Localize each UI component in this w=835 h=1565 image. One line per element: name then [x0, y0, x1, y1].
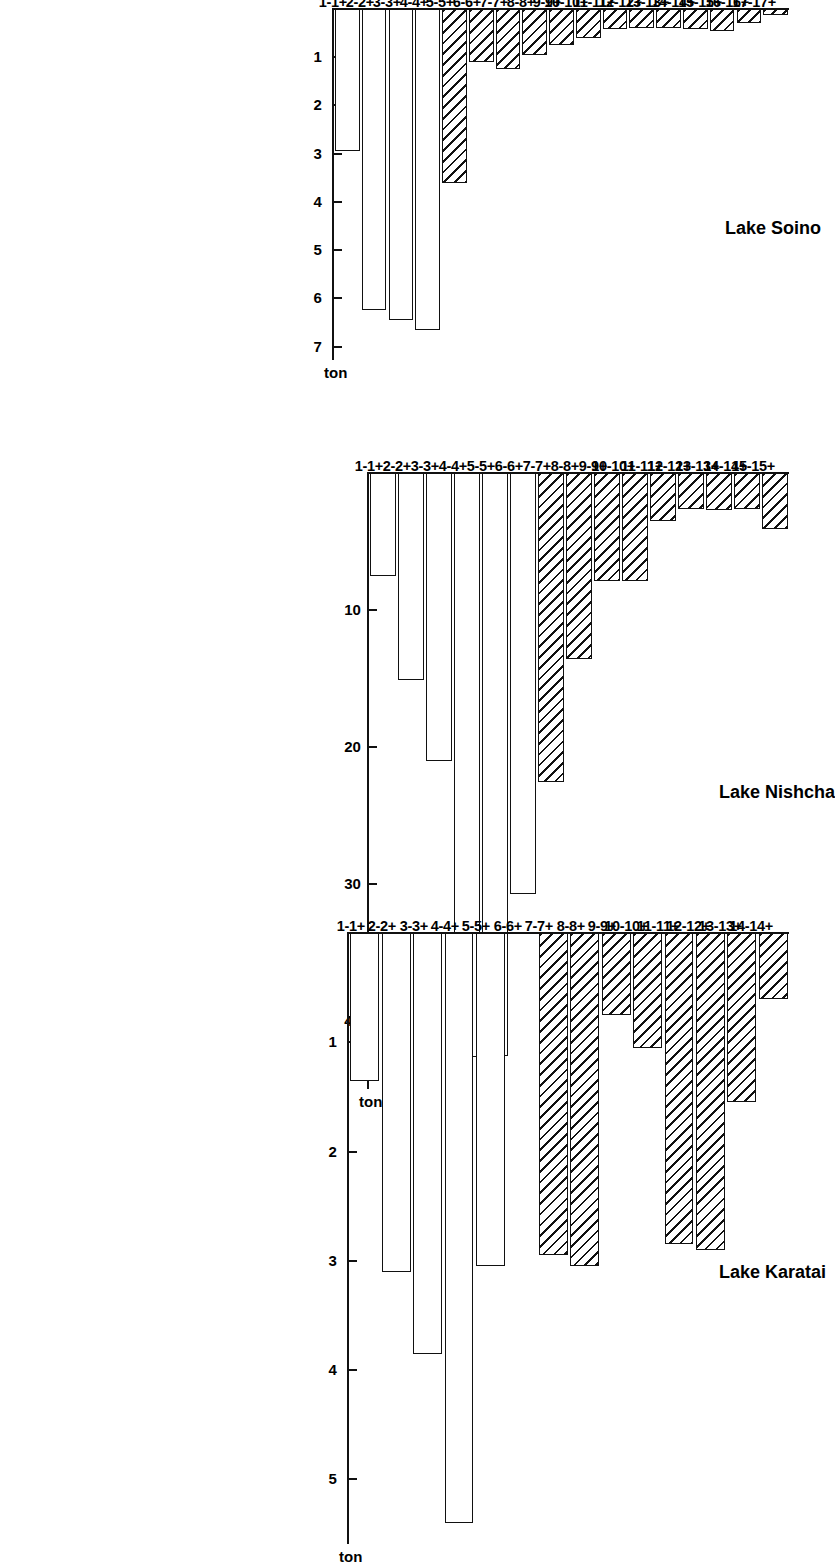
bar: [696, 933, 725, 1250]
category-label: 6-6+: [495, 458, 523, 474]
value-axis-tick-label: 5: [302, 241, 334, 258]
category-label: 5-5+: [426, 0, 454, 10]
value-axis-unit-label: ton: [339, 1548, 362, 1565]
category-label: 1-1+: [355, 458, 383, 474]
category-label: 2-2+: [383, 458, 411, 474]
value-axis-tick-label: 2: [302, 96, 334, 113]
category-label: 17-17+: [732, 0, 776, 10]
category-label: 3-3+: [373, 0, 401, 10]
category-label: 4-4+: [431, 918, 459, 934]
category-label: 15-15+: [731, 458, 775, 474]
category-label: 7-7+: [525, 918, 553, 934]
bar: [665, 933, 694, 1244]
value-axis-tick: [347, 1369, 357, 1371]
category-label: 7-7+: [480, 0, 508, 10]
bar: [549, 9, 574, 45]
category-label: 8-8+: [507, 0, 535, 10]
category-label: 7-7+: [523, 458, 551, 474]
bar: [370, 473, 396, 576]
bar: [442, 9, 467, 183]
category-label: 5-5+: [467, 458, 495, 474]
value-axis: [347, 932, 349, 1544]
value-axis-tick: [347, 1151, 357, 1153]
value-axis-tick-label: 5: [317, 1470, 349, 1487]
value-axis-tick: [367, 883, 377, 885]
category-label: 3-3+: [411, 458, 439, 474]
category-label: 8-8+: [556, 918, 584, 934]
category-label: 2-2+: [368, 918, 396, 934]
bar: [469, 9, 494, 62]
bar: [415, 9, 440, 330]
bar: [594, 473, 620, 581]
chart-title: Lake Soino: [725, 218, 821, 239]
bar: [350, 933, 379, 1081]
bar: [706, 473, 732, 510]
bar: [476, 933, 505, 1266]
value-axis-tick: [367, 746, 377, 748]
bar: [570, 933, 599, 1266]
bar: [762, 473, 788, 529]
value-axis-tick-label: 2: [317, 1142, 349, 1159]
bar: [389, 9, 414, 320]
value-axis-tick: [332, 201, 342, 203]
bar: [445, 933, 474, 1523]
value-axis-tick-label: 7: [302, 337, 334, 354]
category-label: 14-14+: [730, 918, 774, 934]
value-axis-tick-label: 10: [337, 601, 369, 618]
category-label: 8-8+: [551, 458, 579, 474]
value-axis-tick-label: 1: [317, 1033, 349, 1050]
bar: [710, 9, 735, 31]
chart-panel-lake-soino: 7654321ton1-1+2-2+3-3+4-4+5-5+6-6+7-7+8-…: [334, 8, 789, 360]
value-axis-unit-label: ton: [324, 364, 347, 381]
value-axis-tick-label: 3: [302, 144, 334, 161]
bar: [603, 9, 628, 29]
value-axis-tick-label: 30: [337, 875, 369, 892]
bar: [522, 9, 547, 55]
value-axis-tick: [332, 297, 342, 299]
value-axis-tick-label: 6: [302, 289, 334, 306]
bar: [426, 473, 452, 761]
value-axis-tick-label: 3: [317, 1251, 349, 1268]
category-label: 5-5+: [462, 918, 490, 934]
bar: [398, 473, 424, 680]
category-label: 4-4+: [439, 458, 467, 474]
value-axis-tick: [332, 153, 342, 155]
bar: [734, 473, 760, 509]
chart-title: Lake Nishcha: [719, 782, 835, 803]
bar: [683, 9, 708, 29]
bar: [576, 9, 601, 38]
bar: [413, 933, 442, 1354]
value-axis-tick-label: 1: [302, 48, 334, 65]
bar: [656, 9, 681, 28]
chart-panel-lake-karatai: 54321ton1-1+2-2+3-3+4-4+5-5+6-6+7-7+8-8+…: [349, 932, 789, 1544]
category-label: 6-6+: [453, 0, 481, 10]
value-axis-tick-label: 4: [302, 192, 334, 209]
bar: [737, 9, 762, 23]
bar: [538, 473, 564, 782]
bar: [633, 933, 662, 1048]
chart-title: Lake Karatai: [719, 1262, 826, 1283]
bar: [496, 9, 521, 69]
category-label: 1-1+: [336, 918, 364, 934]
bar: [602, 933, 631, 1015]
category-label: 4-4+: [399, 0, 427, 10]
category-label: 3-3+: [399, 918, 427, 934]
value-axis-tick: [347, 1478, 357, 1480]
value-axis-tick-label: 20: [337, 738, 369, 755]
category-label: 2-2+: [346, 0, 374, 10]
value-axis-tick: [367, 609, 377, 611]
bar: [622, 473, 648, 581]
bar: [539, 933, 568, 1255]
value-axis-tick: [332, 346, 342, 348]
value-axis-tick: [332, 249, 342, 251]
bar: [510, 473, 536, 894]
bar: [566, 473, 592, 659]
bar: [759, 933, 788, 999]
bar: [727, 933, 756, 1102]
bar: [630, 9, 655, 28]
bar: [678, 473, 704, 509]
value-axis-tick-label: 4: [317, 1361, 349, 1378]
bar: [382, 933, 411, 1272]
category-label: 6-6+: [494, 918, 522, 934]
